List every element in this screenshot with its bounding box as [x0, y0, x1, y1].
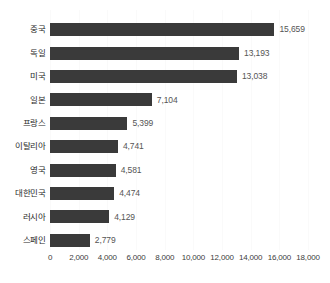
bar-value-label: 4,474 — [119, 189, 140, 198]
x-tick-label: 6,000 — [126, 254, 145, 262]
bar-row: 이탈리아4,741 — [50, 135, 308, 158]
gridline — [308, 10, 309, 250]
x-tick-label: 18,000 — [296, 254, 319, 262]
category-label: 대한민국 — [15, 189, 46, 198]
category-label: 일본 — [30, 96, 46, 105]
bar-row: 대한민국4,474 — [50, 182, 308, 205]
bar-value-label: 5,399 — [132, 119, 153, 128]
bar-row: 일본7,104 — [50, 88, 308, 111]
bar — [50, 210, 109, 223]
bar — [50, 234, 90, 247]
bar-row: 영국4,581 — [50, 158, 308, 181]
x-axis: 02,0004,0006,0008,00010,00012,00014,0001… — [50, 252, 308, 272]
x-tick-label: 10,000 — [182, 254, 205, 262]
x-tick-label: 14,000 — [239, 254, 262, 262]
category-label: 러시아 — [23, 213, 46, 222]
bar-value-label: 4,129 — [114, 213, 135, 222]
bar-series: 중국15,659독일13,193미국13,038일본7,104프랑스5,399이… — [50, 10, 308, 250]
bar-value-label: 2,779 — [95, 236, 116, 245]
bar — [50, 23, 274, 36]
category-label: 미국 — [30, 72, 46, 81]
bar — [50, 93, 152, 106]
x-tick-label: 16,000 — [268, 254, 291, 262]
category-label: 독일 — [30, 49, 46, 58]
bar-chart: 중국15,659독일13,193미국13,038일본7,104프랑스5,399이… — [0, 0, 330, 283]
bar-value-label: 4,581 — [121, 166, 142, 175]
category-label: 중국 — [30, 25, 46, 34]
category-label: 프랑스 — [23, 119, 46, 128]
bar-row: 프랑스5,399 — [50, 112, 308, 135]
bar-value-label: 4,741 — [123, 142, 144, 151]
bar-value-label: 13,038 — [242, 72, 267, 81]
bar-value-label: 15,659 — [279, 25, 304, 34]
category-label: 스페인 — [23, 236, 46, 245]
bar-row: 러시아4,129 — [50, 205, 308, 228]
x-tick-label: 8,000 — [155, 254, 174, 262]
x-tick-label: 2,000 — [69, 254, 88, 262]
category-label: 이탈리아 — [15, 142, 46, 151]
bar-row: 독일13,193 — [50, 41, 308, 64]
bar — [50, 187, 114, 200]
x-tick-label: 12,000 — [210, 254, 233, 262]
plot-area: 중국15,659독일13,193미국13,038일본7,104프랑스5,399이… — [50, 10, 308, 250]
bar-value-label: 7,104 — [157, 96, 178, 105]
bar-value-label: 13,193 — [244, 49, 269, 58]
bar — [50, 47, 239, 60]
x-tick-label: 0 — [48, 254, 52, 262]
bar — [50, 140, 118, 153]
bar-row: 미국13,038 — [50, 65, 308, 88]
bar — [50, 70, 237, 83]
x-tick-label: 4,000 — [98, 254, 117, 262]
bar — [50, 117, 127, 130]
bar — [50, 164, 116, 177]
category-label: 영국 — [30, 166, 46, 175]
bar-row: 중국15,659 — [50, 18, 308, 41]
bar-row: 스페인2,779 — [50, 229, 308, 252]
